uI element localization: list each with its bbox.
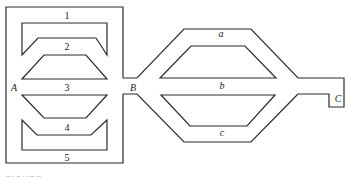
path-label-c: c <box>220 127 225 138</box>
path-label-3: 3 <box>65 82 70 93</box>
island-b-c <box>161 95 275 126</box>
path-label-1: 1 <box>65 10 70 21</box>
node-label-a-upper: A <box>10 82 18 93</box>
island-a-b <box>160 46 276 78</box>
path-label-a: a <box>219 28 224 39</box>
island-3-4 <box>22 95 107 118</box>
figure-caption: FIGURE <box>6 174 42 177</box>
island-2-3 <box>22 55 107 79</box>
channel-network-diagram: 1 2 3 4 5 A B a b c C FIGURE <box>0 0 347 177</box>
path-label-2: 2 <box>65 41 70 52</box>
path-label-5: 5 <box>65 152 70 163</box>
right-outer-wall-lower <box>123 94 298 142</box>
node-label-c-upper: C <box>335 93 342 104</box>
path-label-4: 4 <box>65 122 70 133</box>
node-label-b-upper: B <box>130 82 136 93</box>
path-label-b: b <box>220 80 225 91</box>
